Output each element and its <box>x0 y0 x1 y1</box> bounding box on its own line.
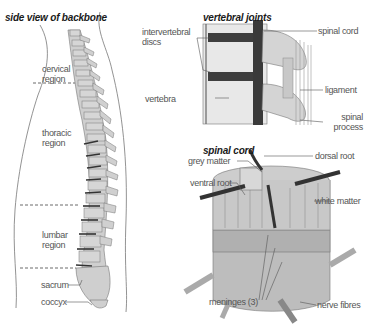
label-sacrum: sacrum <box>41 280 69 290</box>
spinal-cord-title: spinal cord <box>203 145 254 156</box>
label-nerve-fibres: nerve fibres <box>317 300 360 310</box>
label-white-matter: white matter <box>315 196 360 206</box>
joint-illustration <box>203 20 311 125</box>
label-intervertebral-discs: intervertebral discs <box>142 27 190 47</box>
label-ligament: ligament <box>325 85 357 95</box>
label-ventral-root: ventral root <box>190 178 231 188</box>
label-grey-matter: grey matter <box>188 156 230 166</box>
diagram-artwork <box>0 0 370 325</box>
vertebral-joints-title: vertebral joints <box>203 12 272 23</box>
label-spinal-cord: spinal cord <box>318 26 358 36</box>
label-thoracic-region: thoracic region <box>42 128 71 148</box>
label-vertebra: vertebra <box>145 94 176 104</box>
label-lumbar-region: lumbar region <box>42 230 68 250</box>
label-dorsal-root: dorsal root <box>315 151 354 161</box>
label-meninges: meninges (3) <box>209 297 258 307</box>
coccyx <box>90 300 108 308</box>
label-cervical-region: cervical region <box>42 64 70 84</box>
side-view-title: side view of backbone <box>5 12 107 23</box>
label-coccyx: coccyx <box>41 297 67 307</box>
label-spinal-process: spinal process <box>325 112 363 132</box>
sacrum <box>76 266 110 305</box>
